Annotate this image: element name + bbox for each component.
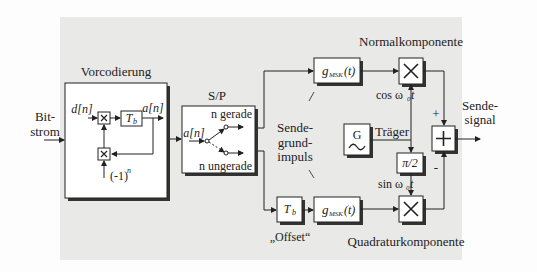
precoding-factor-label: (-1) <box>110 169 128 183</box>
upper-pulse-label: g <box>322 63 329 78</box>
annotation-line3: impuls <box>277 149 312 164</box>
carrier-label: Träger <box>375 124 410 139</box>
upper-pulse-sub: MSK <box>328 71 343 79</box>
cos-t: t <box>411 88 415 102</box>
sp-input-label: a[n] <box>183 126 205 140</box>
normal-component-label: Normalkomponente <box>359 34 463 49</box>
sp-even-label: n gerade <box>211 107 252 121</box>
offset-delay-sub: b <box>292 208 296 217</box>
switch-contact-odd <box>224 151 228 155</box>
sp-odd-label: n ungerade <box>199 159 252 173</box>
precoding-delay-sub: b <box>133 117 137 126</box>
lower-pulse-label: g <box>322 202 329 217</box>
annotation-line2: grund- <box>278 135 313 150</box>
annotation-leader-top <box>309 92 314 101</box>
precoding-title: Vorcodierung <box>81 64 152 79</box>
input-label-line1: Bit- <box>35 109 55 124</box>
sp-title: S/P <box>208 88 226 103</box>
quadrature-component-label: Quadraturkomponente <box>348 234 465 249</box>
upper-pulse-arg: (t) <box>344 64 355 78</box>
precoding-input-label: d[n] <box>71 102 93 116</box>
lower-pulse-arg: (t) <box>344 203 355 217</box>
annotation-line1: Sende- <box>277 120 313 135</box>
sin-t: t <box>410 177 414 191</box>
switch-contact-even <box>224 125 228 129</box>
phase-shift-label: π/2 <box>402 156 417 170</box>
sum-plus-sign: + <box>432 106 439 121</box>
output-label-line1: Sende- <box>462 98 498 113</box>
cos-label: cos ω <box>376 88 403 102</box>
msk-transmitter-diagram: Bit- strom Vorcodierung d[n] T b a[n] (-… <box>0 0 537 272</box>
sin-label: sin ω <box>378 177 403 191</box>
output-label-line2: signal <box>464 112 495 127</box>
sum-minus-sign: - <box>434 160 438 175</box>
precoding-factor-sup: n <box>127 166 131 175</box>
generator-label: G <box>353 128 362 142</box>
annotation-leader-bottom <box>309 170 314 178</box>
input-label-line2: strom <box>30 124 60 139</box>
precoding-output-label: a[n] <box>142 101 164 115</box>
offset-label: „Offset“ <box>270 230 310 244</box>
switch-pivot <box>205 139 209 143</box>
sp-to-offset <box>258 151 276 210</box>
lower-pulse-sub: MSK <box>328 210 343 218</box>
block-diagram: Bit- strom Vorcodierung d[n] T b a[n] (-… <box>0 0 537 272</box>
